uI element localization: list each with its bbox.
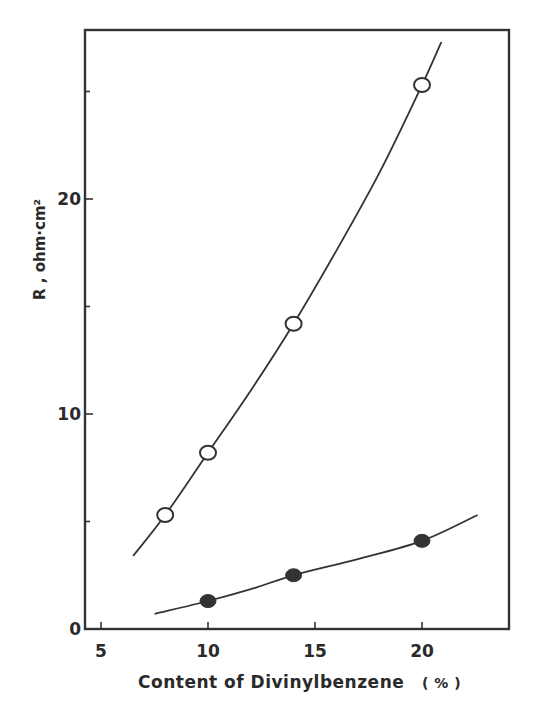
x-axis-title-text: Content of Divinylbenzene (138, 672, 404, 692)
open-circle-marker (286, 317, 302, 331)
y-axis-title-text: R , ohm·cm² (31, 199, 49, 300)
filled-circle-marker (414, 534, 430, 547)
y-tick-label: 10 (57, 404, 81, 424)
chart: 510152001020 Content of Divinylbenzene (… (0, 0, 536, 711)
x-tick-label: 5 (95, 641, 107, 661)
open-circle-marker (157, 508, 173, 522)
series-markers (157, 78, 430, 608)
y-tick-label: 0 (69, 619, 81, 639)
open-series-curve (133, 42, 441, 556)
open-circle-marker (414, 78, 430, 92)
x-axis-title: Content of Divinylbenzene ( % ) (138, 672, 461, 692)
filled-circle-marker (200, 595, 216, 608)
y-tick-label: 20 (57, 189, 81, 209)
series-curves (133, 42, 478, 614)
y-axis-title: R , ohm·cm² (31, 199, 49, 300)
axis-ticks (85, 92, 422, 630)
x-tick-label: 10 (196, 641, 220, 661)
filled-circle-marker (286, 569, 302, 582)
open-circle-marker (200, 446, 216, 460)
x-tick-label: 15 (303, 641, 327, 661)
x-tick-label: 20 (410, 641, 434, 661)
x-axis-unit-text: ( % ) (422, 675, 461, 691)
